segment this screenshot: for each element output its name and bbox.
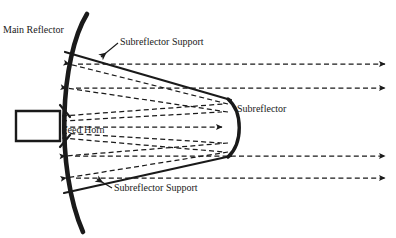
label-subreflector: Subreflector	[237, 103, 287, 114]
main-reflector-shape	[64, 14, 87, 232]
label-feed-horn: Feed Horn	[62, 124, 105, 135]
label-subreflector-support-top: Subreflector Support	[120, 36, 204, 47]
leader-line-support-top	[101, 43, 118, 57]
antenna-diagram: Main Reflector Subreflector Support Subr…	[0, 0, 396, 238]
ray-group-subreflector-to-reflector-lower	[65, 143, 228, 178]
label-subreflector-support-bottom: Subreflector Support	[114, 182, 198, 193]
label-main-reflector: Main Reflector	[3, 24, 64, 35]
ray-group-outgoing-lower	[75, 156, 385, 178]
diagram-canvas: Main Reflector Subreflector Support Subr…	[0, 0, 396, 238]
subreflector-support-upper	[65, 52, 231, 100]
